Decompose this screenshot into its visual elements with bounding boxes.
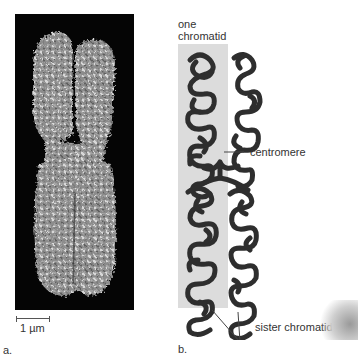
panel-a-label: a. bbox=[3, 344, 12, 356]
chromosome-micrograph bbox=[15, 14, 134, 310]
chromatid-diagram bbox=[170, 40, 349, 340]
scan-artifact bbox=[318, 300, 358, 340]
panel-b-label: b. bbox=[178, 343, 187, 355]
scale-bar-label: 1 µm bbox=[20, 322, 45, 334]
centromere-label: centromere bbox=[250, 146, 306, 158]
one-chromatid-label-line1: one bbox=[178, 18, 196, 30]
chromosome-sem-image bbox=[15, 14, 134, 310]
